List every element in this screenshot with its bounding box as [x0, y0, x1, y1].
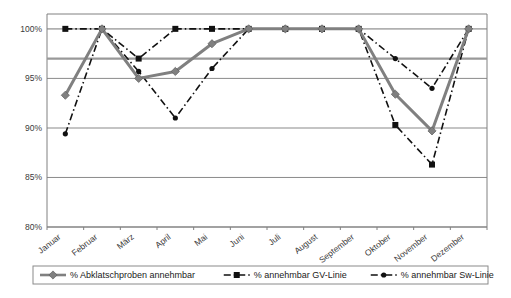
data-point-marker-circle: [393, 56, 398, 61]
data-point-marker-square: [392, 122, 398, 128]
y-axis-tick-label: 85%: [25, 172, 42, 182]
data-point-marker-circle: [429, 86, 434, 91]
legend-item-label: % Abklatschproben annehmbar: [70, 270, 195, 280]
y-axis-tick-label: 100%: [20, 24, 42, 34]
data-point-marker-circle: [63, 131, 68, 136]
legend-item-label: % annehmbar Sw-Linie: [401, 270, 494, 280]
data-point-marker-square: [62, 26, 68, 32]
line-chart: 80%85%90%95%100% JanuarFebruarMärzAprilM…: [0, 0, 511, 298]
y-axis-tick-label: 90%: [25, 123, 42, 133]
data-point-marker-square: [234, 272, 240, 278]
data-point-marker-circle: [136, 69, 141, 74]
data-point-marker-square: [429, 162, 435, 168]
data-point-marker-square: [209, 26, 215, 32]
data-point-marker-circle: [209, 66, 214, 71]
chart-container: 80%85%90%95%100% JanuarFebruarMärzAprilM…: [0, 0, 511, 298]
legend-item-label: % annehmbar GV-Linie: [254, 270, 347, 280]
data-point-marker-square: [172, 26, 178, 32]
y-axis-tick-label: 80%: [25, 222, 42, 232]
data-point-marker-square: [136, 56, 142, 62]
y-axis-tick-label: 95%: [25, 73, 42, 83]
chart-legend: % Abklatschproben annehmbar% annehmbar G…: [33, 266, 494, 284]
data-point-marker-circle: [381, 272, 386, 277]
data-point-marker-circle: [173, 115, 178, 120]
